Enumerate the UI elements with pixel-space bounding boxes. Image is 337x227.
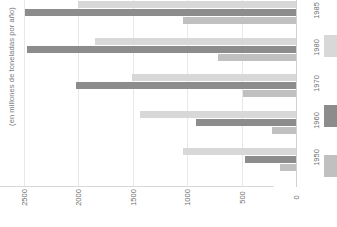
bar (245, 156, 296, 163)
bar-group (24, 74, 296, 97)
y-axis-line (296, 0, 297, 187)
bar (272, 127, 296, 134)
legend-swatch (324, 155, 337, 177)
bar-group (24, 148, 296, 171)
x-tick-label: 1500 (128, 183, 137, 213)
bar (243, 90, 296, 97)
x-tick-label: 0 (292, 183, 301, 213)
bar (95, 38, 296, 45)
bar (218, 54, 296, 61)
bar-group (24, 1, 296, 24)
y-tick-label: 1960 (312, 104, 321, 138)
x-tick-label: 2000 (74, 183, 83, 213)
bar-chart: (en millones de toneladas por año) 25002… (0, 0, 337, 227)
x-tick-label: 2500 (20, 183, 29, 213)
bar (196, 119, 296, 126)
bar (183, 17, 296, 24)
x-tick-label: 500 (237, 183, 246, 213)
bar (25, 9, 296, 16)
bar (78, 1, 296, 8)
bar-group (24, 111, 296, 134)
y-tick-label: 1970 (312, 67, 321, 101)
bar-group (24, 38, 296, 61)
bar (132, 74, 296, 81)
y-tick-label: 1950 (312, 141, 321, 175)
legend-swatch (324, 105, 337, 127)
legend (322, 0, 337, 227)
x-tick-label: 1000 (183, 183, 192, 213)
legend-swatch (324, 35, 337, 57)
y-tick-label: 1980 (312, 31, 321, 65)
bar (76, 82, 296, 89)
y-tick-label: 1985 (312, 0, 321, 28)
y-axis-title: (en millones de toneladas por año) (7, 0, 16, 154)
plot-area (24, 0, 296, 186)
bar (27, 46, 296, 53)
bar (140, 111, 296, 118)
bar (280, 164, 296, 171)
bar (183, 148, 296, 155)
